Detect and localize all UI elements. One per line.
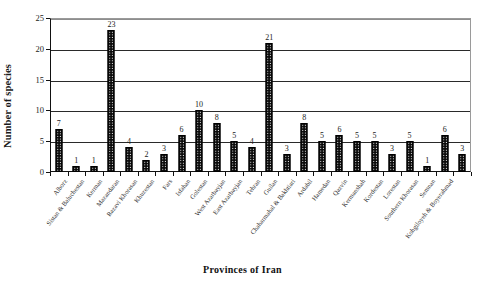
bar-slot: 3	[278, 18, 296, 172]
y-tick-label-10: 10	[16, 105, 44, 115]
x-tick-mark	[471, 172, 472, 176]
bar-value-label: 6	[443, 125, 447, 134]
bar-value-label: 10	[195, 100, 203, 109]
bar-value-label: 5	[232, 131, 236, 140]
x-axis-label-text: Fars	[161, 176, 175, 191]
bar-slot: 7	[50, 18, 68, 172]
bar-value-label: 5	[373, 131, 377, 140]
bar-slot: 5	[225, 18, 243, 172]
y-tick-label-0: 0	[16, 167, 44, 177]
bar[interactable]	[266, 43, 273, 172]
x-axis-title: Provinces of Iran	[0, 264, 485, 275]
bar-value-label: 8	[215, 113, 219, 122]
bar[interactable]	[55, 129, 62, 172]
bar-slot: 5	[366, 18, 384, 172]
bar-slot: 2	[138, 18, 156, 172]
bar-value-label: 4	[127, 137, 131, 146]
bar-slot: 3	[453, 18, 471, 172]
bar-slot: 6	[173, 18, 191, 172]
bar-value-label: 21	[265, 33, 273, 42]
bar-value-label: 3	[285, 144, 289, 153]
bar-slot: 5	[348, 18, 366, 172]
bar-value-label: 3	[460, 144, 464, 153]
y-axis-title-text: Number of species	[2, 36, 13, 176]
bar-value-label: 6	[180, 125, 184, 134]
bar-value-label: 7	[57, 119, 61, 128]
y-tick-label-5: 5	[16, 136, 44, 146]
y-tick-label-25: 25	[16, 13, 44, 23]
bar-slot: 1	[418, 18, 436, 172]
bar-slot: 6	[331, 18, 349, 172]
bar-slot: 10	[190, 18, 208, 172]
bar-value-label: 5	[408, 131, 412, 140]
bar-slot: 1	[68, 18, 86, 172]
y-tick-label-15: 15	[16, 75, 44, 85]
x-axis-label-text: Tehran	[244, 176, 262, 196]
bar-value-label: 5	[355, 131, 359, 140]
y-tick-label-20: 20	[16, 44, 44, 54]
bar-value-label: 8	[302, 113, 306, 122]
bar-slot: 8	[296, 18, 314, 172]
bar-slot: 5	[401, 18, 419, 172]
bar-slot: 1	[85, 18, 103, 172]
bar-chart: Number of species 0510152025 71123423610…	[0, 0, 485, 288]
bar-slot: 8	[208, 18, 226, 172]
bar-value-label: 3	[390, 144, 394, 153]
bar-value-label: 23	[107, 20, 115, 29]
x-axis-labels: AlborzSistan & BaluchestanKermanMazandar…	[50, 176, 471, 260]
bar-slot: 4	[120, 18, 138, 172]
